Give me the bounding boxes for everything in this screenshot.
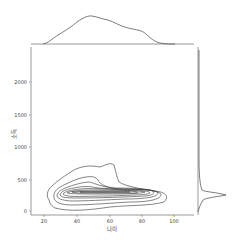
y-tick-1000: 1000 — [14, 144, 27, 150]
y-tick-1500: 1500 — [14, 112, 27, 118]
y-axis-ticks: 0 500 1000 1500 2000 — [14, 79, 31, 214]
x-tick-60: 60 — [107, 218, 113, 224]
x-axis-ticks: 20 40 60 80 100 — [41, 215, 179, 224]
joint-kde-chart: 0 500 1000 1500 2000 20 40 60 80 100 나이 … — [0, 0, 242, 243]
x-axis-label: 나이 — [107, 225, 117, 233]
y-axis-label: 소득 — [11, 129, 18, 139]
x-tick-20: 20 — [41, 218, 47, 224]
y-tick-0: 0 — [24, 208, 27, 214]
x-tick-40: 40 — [74, 218, 80, 224]
x-tick-100: 100 — [169, 218, 179, 224]
x-tick-80: 80 — [139, 218, 145, 224]
main-axes — [31, 47, 194, 215]
y-tick-2000: 2000 — [14, 79, 27, 85]
y-tick-500: 500 — [17, 177, 27, 183]
kde-contours — [47, 164, 166, 211]
top-marginal-density — [31, 16, 194, 44]
right-marginal-density — [198, 47, 226, 215]
